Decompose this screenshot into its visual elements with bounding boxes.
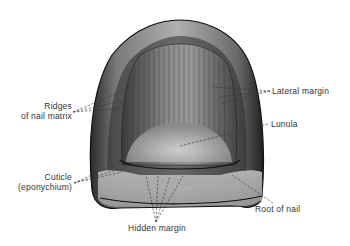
label-line: Cuticle bbox=[14, 172, 72, 182]
label-root-of-nail: Root of nail bbox=[255, 204, 300, 214]
label-line: (eponychium) bbox=[14, 182, 72, 192]
nail-anatomy-figure: Ridges of nail matrix Cuticle (eponychiu… bbox=[0, 0, 350, 246]
label-cuticle: Cuticle (eponychium) bbox=[14, 172, 72, 192]
label-line: Ridges bbox=[14, 101, 72, 111]
label-line: of nail matrix bbox=[14, 111, 72, 121]
label-hidden-margin: Hidden margin bbox=[126, 223, 188, 233]
label-lunula: Lunula bbox=[271, 119, 298, 129]
label-lateral-margin: Lateral margin bbox=[272, 86, 329, 96]
label-ridges-of-nail-matrix: Ridges of nail matrix bbox=[14, 101, 72, 121]
